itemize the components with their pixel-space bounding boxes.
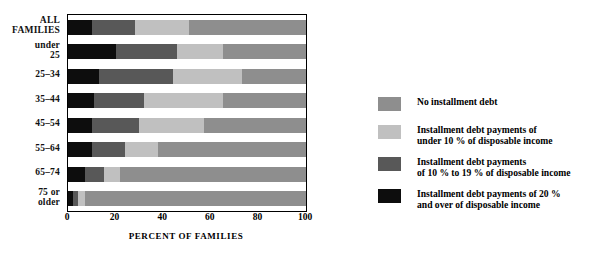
bar-row: [68, 118, 306, 133]
y-axis-label: 25–34: [0, 70, 60, 80]
bar-segment: [85, 191, 306, 206]
y-axis-label: 75 orolder: [0, 188, 60, 208]
legend-color-swatch: [378, 125, 401, 139]
legend-color-swatch: [378, 189, 401, 203]
bar-row: [68, 93, 306, 108]
y-axis-label: 45–54: [0, 119, 60, 129]
bar-segment: [68, 69, 99, 84]
x-axis-tick-label: 20: [110, 212, 120, 222]
bar-row: [68, 69, 306, 84]
bar-segment: [135, 20, 190, 35]
bar-segment: [68, 118, 92, 133]
bar-segment: [94, 93, 144, 108]
chart-legend: No installment debtInstallment debt paym…: [378, 96, 606, 219]
x-axis-tick-label: 0: [65, 212, 70, 222]
bar-segment: [68, 93, 94, 108]
bar-segment: [173, 69, 242, 84]
bar-segment: [223, 44, 306, 59]
y-axis-label: ALLFAMILIES: [0, 16, 60, 36]
legend-item: Installment debt paymentsof 10 % to 19 %…: [378, 156, 606, 179]
bar-row: [68, 20, 306, 35]
bar-segment: [92, 20, 135, 35]
legend-label: Installment debt paymentsof 10 % to 19 %…: [417, 156, 571, 179]
legend-color-swatch: [378, 97, 401, 111]
y-axis-label: 35–44: [0, 95, 60, 105]
bar-segment: [104, 167, 121, 182]
bar-segment: [68, 44, 116, 59]
x-axis-ticks: 020406080100: [67, 212, 305, 228]
bar-segment: [68, 20, 92, 35]
bar-segment: [68, 142, 92, 157]
x-axis-tick-label: 40: [157, 212, 167, 222]
bar-segment: [116, 44, 178, 59]
bars-container: [68, 15, 306, 211]
bar-segment: [92, 118, 140, 133]
bar-segment: [177, 44, 222, 59]
legend-label: Installment debt payments ofunder 10 % o…: [417, 124, 552, 147]
y-axis-category-labels: ALLFAMILIESunder2525–3435–4445–5455–6465…: [0, 14, 63, 210]
bar-segment: [139, 118, 203, 133]
bar-segment: [223, 93, 306, 108]
plot-area: [67, 14, 307, 212]
bar-segment: [78, 191, 85, 206]
bar-segment: [120, 167, 306, 182]
x-axis-tick-label: 80: [253, 212, 263, 222]
x-axis-tick-label: 100: [298, 212, 312, 222]
legend-item: Installment debt payments of 20 %and ove…: [378, 188, 606, 211]
bar-segment: [68, 167, 85, 182]
bar-segment: [242, 69, 306, 84]
bar-segment: [92, 142, 125, 157]
stacked-bar-chart: ALLFAMILIESunder2525–3435–4445–5455–6465…: [0, 0, 330, 254]
bar-segment: [85, 167, 104, 182]
bar-segment: [158, 142, 306, 157]
bar-segment: [99, 69, 173, 84]
y-axis-label: under25: [0, 41, 60, 61]
legend-color-swatch: [378, 157, 401, 171]
bar-row: [68, 191, 306, 206]
y-axis-label: 65–74: [0, 168, 60, 178]
bar-segment: [189, 20, 306, 35]
bar-segment: [204, 118, 306, 133]
legend-item: Installment debt payments ofunder 10 % o…: [378, 124, 606, 147]
x-axis-title: PERCENT OF FAMILIES: [67, 231, 305, 241]
bar-row: [68, 44, 306, 59]
bar-row: [68, 167, 306, 182]
bar-row: [68, 142, 306, 157]
bar-segment: [125, 142, 158, 157]
bar-segment: [144, 93, 223, 108]
x-axis-tick-label: 60: [205, 212, 215, 222]
legend-item: No installment debt: [378, 96, 606, 115]
legend-label: Installment debt payments of 20 %and ove…: [417, 188, 561, 211]
y-axis-label: 55–64: [0, 144, 60, 154]
legend-label: No installment debt: [417, 96, 497, 107]
